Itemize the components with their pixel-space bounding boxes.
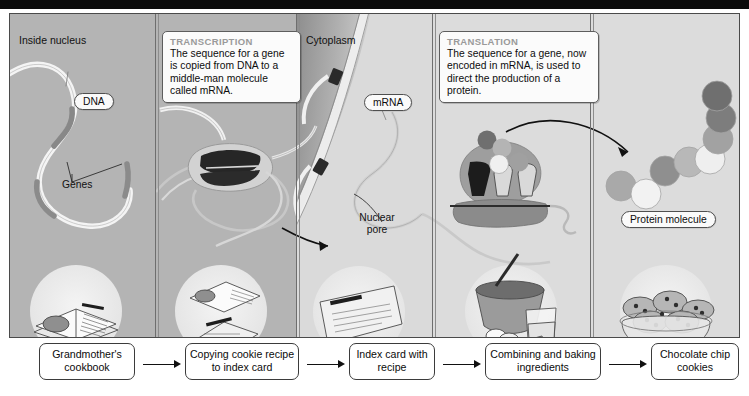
- flow-arrow-3: [443, 360, 481, 369]
- ribosome-art: [422, 131, 576, 265]
- label-dna: DNA: [74, 93, 114, 110]
- photo-cookbook: [30, 265, 122, 338]
- callout-transcription-body: The sequence for a gene is copied from D…: [170, 48, 294, 97]
- dna-strand-panel1: [10, 64, 130, 226]
- panel-divider-1b: [158, 14, 159, 338]
- callout-translation-body: The sequence for a gene, now encoded in …: [447, 48, 592, 97]
- region-label-cytoplasm: Cytoplasm: [306, 34, 356, 46]
- analogy-flow-row: Grandmother's cookbook Copying cookie re…: [9, 343, 740, 387]
- callout-transcription-title: TRANSCRIPTION: [170, 36, 294, 47]
- callout-transcription: TRANSCRIPTION The sequence for a gene is…: [162, 31, 301, 103]
- flow-arrow-4: [609, 360, 647, 369]
- label-nuclear-pore: Nuclear pore: [348, 212, 406, 236]
- flow-step-grandmothers-cookbook: Grandmother's cookbook: [39, 343, 135, 380]
- top-black-bar: [0, 0, 749, 9]
- region-label-inside-nucleus: Inside nucleus: [19, 34, 86, 46]
- flow-arrow-1: [143, 360, 181, 369]
- label-mrna: mRNA: [364, 94, 412, 111]
- photo-cookies: [620, 265, 714, 338]
- label-protein-molecule: Protein molecule: [621, 211, 716, 228]
- flow-arrow-2: [307, 360, 345, 369]
- photo-index-card: [313, 266, 405, 338]
- panel-divider-3b: [435, 14, 436, 338]
- flow-step-copying-recipe: Copying cookie recipe to index card: [185, 343, 299, 380]
- callout-translation: TRANSLATION The sequence for a gene, now…: [439, 31, 599, 103]
- panel-divider-1: [155, 14, 156, 338]
- panel-divider-3: [432, 14, 433, 338]
- transcription-art: [156, 108, 316, 246]
- photo-baking-ingredients: [465, 254, 557, 338]
- diagram-artwork: [10, 14, 740, 338]
- flow-step-chocolate-chip-cookies: Chocolate chip cookies: [651, 343, 739, 380]
- label-genes: Genes: [62, 179, 92, 191]
- transcription-to-pore-arrow: [282, 228, 328, 251]
- photo-copying-recipe: [175, 265, 267, 338]
- protein-chain-art: [606, 81, 736, 209]
- diagram-frame: Inside nucleus Cytoplasm TRANSCRIPTION T…: [9, 13, 740, 338]
- flow-step-combining-baking: Combining and baking ingredients: [485, 343, 601, 380]
- figure-root: Inside nucleus Cytoplasm TRANSCRIPTION T…: [0, 0, 749, 396]
- callout-translation-title: TRANSLATION: [447, 36, 592, 47]
- flow-step-index-card: Index card with recipe: [349, 343, 435, 380]
